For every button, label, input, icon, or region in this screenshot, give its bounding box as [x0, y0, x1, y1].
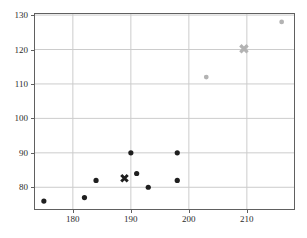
axes-spines: [35, 14, 295, 210]
y-tick-label: 80: [2, 183, 28, 192]
y-tick-mark: [31, 118, 34, 119]
scatter-chart: 1801902002108090100110120130: [0, 0, 307, 238]
y-tick-label: 100: [2, 114, 28, 123]
dark-cluster-points-marker: [175, 178, 180, 183]
y-tick-label: 130: [2, 11, 28, 20]
y-tick-label: 120: [2, 46, 28, 55]
x-tick-mark: [73, 210, 74, 213]
x-tick-label: 190: [124, 215, 138, 224]
dark-cluster-points-marker: [128, 150, 133, 155]
dark-cluster-points-marker: [41, 198, 46, 203]
y-tick-mark: [31, 84, 34, 85]
y-tick-mark: [31, 153, 34, 154]
dark-cluster-points-marker: [93, 178, 98, 183]
plot-area: [34, 13, 295, 210]
dark-cluster-centroid-marker: [121, 175, 127, 181]
x-tick-label: 200: [182, 215, 196, 224]
x-tick-label: 210: [240, 215, 254, 224]
light-cluster-points-marker: [204, 75, 209, 80]
light-cluster-points-marker: [279, 20, 284, 25]
y-tick-label: 110: [2, 80, 28, 89]
y-tick-mark: [31, 187, 34, 188]
dark-cluster-points-marker: [175, 150, 180, 155]
y-tick-label: 90: [2, 149, 28, 158]
x-tick-mark: [189, 210, 190, 213]
x-tick-mark: [131, 210, 132, 213]
x-tick-label: 180: [66, 215, 80, 224]
x-tick-mark: [247, 210, 248, 213]
dark-cluster-points-marker: [146, 185, 151, 190]
plot-canvas: [34, 13, 295, 210]
y-tick-mark: [31, 15, 34, 16]
y-tick-mark: [31, 50, 34, 51]
dark-cluster-points-marker: [134, 171, 139, 176]
dark-cluster-points-marker: [82, 195, 87, 200]
